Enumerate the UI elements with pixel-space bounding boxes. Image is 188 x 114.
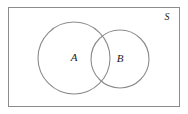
set-b-label: B <box>117 52 124 64</box>
venn-diagram-canvas: A B S <box>0 0 188 114</box>
set-a-label: A <box>70 51 78 63</box>
universal-set-rectangle <box>9 8 180 107</box>
universal-set-label: S <box>165 11 170 22</box>
venn-diagram-figure: A B S <box>0 0 188 114</box>
